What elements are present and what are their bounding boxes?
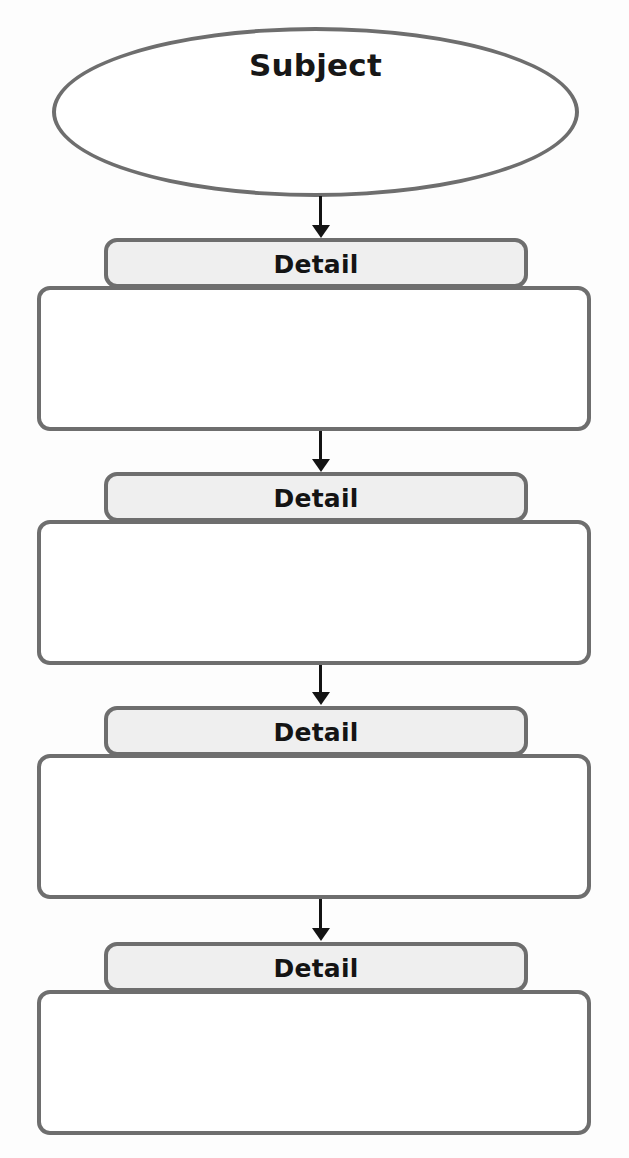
detail-header-1[interactable]: Detail xyxy=(104,238,528,288)
detail-body-3[interactable] xyxy=(37,754,591,899)
detail-body-text xyxy=(41,524,587,544)
connector-line xyxy=(319,430,322,461)
detail-body-text xyxy=(41,290,587,310)
detail-body-4[interactable] xyxy=(37,990,591,1135)
detail-body-text xyxy=(41,994,587,1014)
detail-header-2[interactable]: Detail xyxy=(104,472,528,522)
connector-detail-3-to-detail-4 xyxy=(311,899,331,943)
arrow-down-icon xyxy=(312,459,330,472)
arrow-down-icon xyxy=(312,225,330,238)
connector-line xyxy=(319,665,322,694)
connector-line xyxy=(319,899,322,930)
arrow-down-icon xyxy=(312,928,330,941)
detail-body-1[interactable] xyxy=(37,286,591,431)
connector-subject-to-detail-1 xyxy=(311,196,331,240)
diagram-canvas: Subject Detail Detail Detail xyxy=(0,0,629,1158)
arrow-down-icon xyxy=(312,692,330,705)
detail-body-text xyxy=(41,758,587,778)
connector-line xyxy=(319,196,322,227)
subject-node[interactable]: Subject xyxy=(52,27,579,197)
detail-header-label: Detail xyxy=(108,954,524,983)
detail-header-4[interactable]: Detail xyxy=(104,942,528,992)
detail-header-label: Detail xyxy=(108,718,524,747)
subject-label: Subject xyxy=(56,47,575,83)
connector-detail-1-to-detail-2 xyxy=(311,430,331,474)
connector-detail-2-to-detail-3 xyxy=(311,665,331,707)
detail-header-label: Detail xyxy=(108,484,524,513)
detail-header-label: Detail xyxy=(108,250,524,279)
detail-body-2[interactable] xyxy=(37,520,591,665)
detail-header-3[interactable]: Detail xyxy=(104,706,528,756)
